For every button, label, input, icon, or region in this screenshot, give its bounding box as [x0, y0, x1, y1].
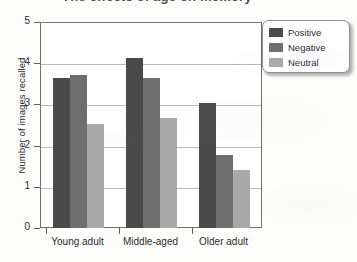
x-tick-mark: [192, 228, 193, 234]
y-axis-ticks: 012345: [0, 0, 40, 250]
legend: Positive Negative Neutral: [262, 20, 350, 73]
legend-label-negative: Negative: [288, 43, 326, 53]
y-tick-label: 5: [24, 15, 30, 26]
legend-swatch-neutral: [269, 58, 283, 67]
legend-swatch-negative: [269, 43, 283, 52]
y-tick-label: 3: [24, 97, 30, 108]
y-tick-label: 2: [24, 139, 30, 150]
legend-item: Neutral: [269, 55, 349, 70]
bar: [126, 58, 143, 228]
x-axis-label: Older adult: [199, 236, 248, 247]
bar: [87, 124, 104, 228]
x-axis-ticks: [40, 228, 262, 236]
legend-label-neutral: Neutral: [288, 58, 319, 68]
bar: [70, 75, 87, 228]
bar: [199, 103, 216, 228]
bar: [216, 155, 233, 228]
bar: [233, 170, 250, 228]
x-axis-label: Young adult: [51, 236, 103, 247]
y-tick-label: 0: [24, 221, 30, 232]
bar: [160, 118, 177, 228]
legend-label-positive: Positive: [288, 28, 321, 38]
y-tick-label: 1: [24, 180, 30, 191]
bar-chart-figure: The effects of age on memory Number of i…: [0, 0, 357, 262]
bars-layer: [41, 23, 261, 228]
x-axis-label: Middle-aged: [123, 236, 178, 247]
bar: [143, 78, 160, 228]
bar: [53, 78, 70, 228]
x-tick-mark: [46, 228, 47, 234]
legend-item: Positive: [269, 25, 349, 40]
legend-item: Negative: [269, 40, 349, 55]
chart-title-text: The effects of age on memory: [62, 0, 258, 4]
x-tick-mark: [119, 228, 120, 234]
y-tick-label: 4: [24, 56, 30, 67]
chart-title-cropped: The effects of age on memory: [62, 0, 258, 8]
x-axis-labels: Young adultMiddle-agedOlder adult: [40, 236, 262, 254]
legend-swatch-positive: [269, 28, 283, 37]
